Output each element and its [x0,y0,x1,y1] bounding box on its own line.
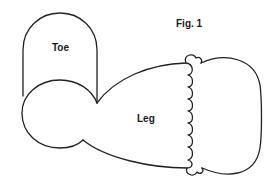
sock-diagram [0,0,273,185]
heel-outline [22,80,97,148]
leg-label: Leg [137,114,155,124]
leg-top-outline [97,63,186,103]
toe-outline [23,13,97,103]
cuff-scallop-edge [185,55,203,175]
figure-canvas: Fig. 1 Toe Leg [0,0,273,185]
leg-bottom-outline [83,140,187,168]
toe-label: Toe [52,43,69,53]
figure-title: Fig. 1 [176,19,202,29]
cuff-right-outline [201,58,262,174]
